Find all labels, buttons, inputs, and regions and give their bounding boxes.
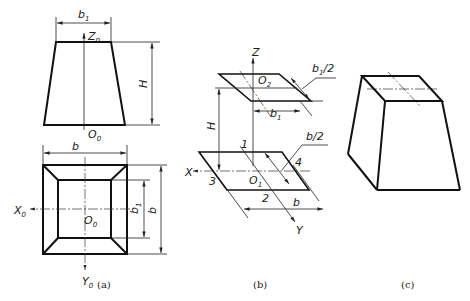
- caption-c: (c): [401, 279, 415, 290]
- label-b-bottom-b: b: [293, 196, 300, 209]
- label-b-half: b/2: [306, 130, 324, 143]
- label-point-3: 3: [209, 175, 216, 188]
- label-y0: Y0: [82, 275, 94, 290]
- label-o0-front: O0: [88, 128, 102, 143]
- label-point-2: 2: [262, 192, 269, 205]
- label-b1-top: b1: [78, 8, 89, 23]
- svg-text:b1: b1: [128, 203, 143, 214]
- label-h-b: H: [205, 122, 218, 130]
- label-o1: O1: [249, 174, 262, 189]
- caption-b: (b): [253, 279, 267, 290]
- panel-c-frustum: [348, 72, 460, 190]
- label-x-axis-b: X: [184, 166, 193, 179]
- label-z-axis-b: Z: [251, 46, 260, 59]
- label-point-1: 1: [241, 138, 248, 151]
- caption-a: (a): [97, 279, 111, 290]
- label-b1-side: b1: [128, 203, 143, 214]
- label-b-top-view: b: [72, 140, 79, 153]
- label-b1-half: b1/2: [312, 62, 334, 77]
- label-b1-width-b: b1: [270, 107, 281, 122]
- label-h-front: H: [137, 80, 150, 88]
- label-z0: Z0: [87, 30, 101, 45]
- label-y-axis-b: Y: [296, 224, 304, 237]
- label-o2: O2: [258, 74, 272, 89]
- label-point-4: 4: [295, 156, 302, 169]
- panel-a-front-view: [44, 17, 160, 130]
- label-b-side: b: [146, 207, 159, 214]
- label-x0: X0: [13, 204, 27, 219]
- frustum-diagram: b1 Z0 H O0 b X0 O0 b1 b Y0 (a): [0, 0, 470, 301]
- label-o0-top: O0: [84, 214, 98, 229]
